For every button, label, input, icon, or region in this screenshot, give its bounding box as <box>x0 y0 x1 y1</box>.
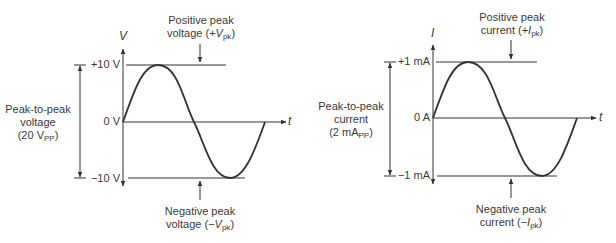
voltage-pp-label: Peak-to-peak voltage (20 VPP) <box>4 103 72 142</box>
voltage-t-axis-label: t <box>288 115 291 128</box>
voltage-tick-neg: −10 V <box>80 172 120 185</box>
current-pp-label: Peak-to-peak current (2 mAPP) <box>318 100 384 139</box>
current-neg-peak-label: Negative peak current (−Ipk) <box>468 203 554 229</box>
current-tick-zero: 0 A <box>390 111 430 124</box>
current-tick-pos: +1 mA <box>390 55 430 68</box>
current-t-axis-label: t <box>599 111 602 124</box>
current-y-axis-label: I <box>431 27 434 40</box>
voltage-tick-zero: 0 V <box>80 115 120 128</box>
voltage-tick-pos: +10 V <box>80 58 120 71</box>
voltage-pos-peak-label: Positive peak voltage (+Vpk) <box>160 14 242 40</box>
voltage-y-axis-label: V <box>119 30 127 43</box>
current-pos-peak-label: Positive peak current (+Ipk) <box>472 11 552 37</box>
current-sine-wave <box>433 62 577 176</box>
current-tick-neg: −1 mA <box>390 169 430 182</box>
voltage-neg-peak-label: Negative peak voltage (−Vpk) <box>157 205 243 231</box>
